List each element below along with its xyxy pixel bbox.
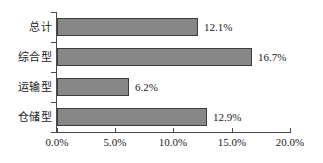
category-label: 运输型 bbox=[0, 81, 52, 93]
category-label: 仓储型 bbox=[0, 111, 52, 123]
bar-value-label: 6.2% bbox=[135, 78, 158, 96]
y-axis-tick bbox=[51, 12, 56, 13]
y-axis-tick bbox=[51, 102, 56, 103]
x-axis-tick-label: 15.0% bbox=[209, 136, 255, 149]
x-axis-tick-label: 20.0% bbox=[267, 136, 313, 149]
x-axis-tick bbox=[173, 128, 174, 133]
x-axis-tick bbox=[115, 128, 116, 133]
x-axis-tick bbox=[290, 128, 291, 133]
bar-series-item bbox=[57, 108, 207, 126]
y-axis-tick bbox=[51, 72, 56, 73]
bar-series-item bbox=[57, 18, 198, 36]
x-axis-tick-label: 10.0% bbox=[150, 136, 196, 149]
bar-series-item bbox=[57, 48, 252, 66]
bar-value-label: 16.7% bbox=[258, 48, 286, 66]
x-axis-tick bbox=[57, 128, 58, 133]
y-axis-tick bbox=[51, 42, 56, 43]
x-axis-tick bbox=[232, 128, 233, 133]
bar-value-label: 12.1% bbox=[204, 18, 232, 36]
x-axis-tick-label: 5.0% bbox=[92, 136, 138, 149]
x-axis-tick-label: 0.0% bbox=[34, 136, 80, 149]
bar-series-item bbox=[57, 78, 129, 96]
category-label: 总计 bbox=[0, 21, 52, 33]
category-label: 综合型 bbox=[0, 51, 52, 63]
y-axis-tick bbox=[51, 132, 56, 133]
bar-value-label: 12.9% bbox=[213, 108, 241, 126]
bar-chart: 总计 综合型 运输型 仓储型 12.1% 16.7% 6.2% 12.9% 0.… bbox=[0, 0, 323, 163]
